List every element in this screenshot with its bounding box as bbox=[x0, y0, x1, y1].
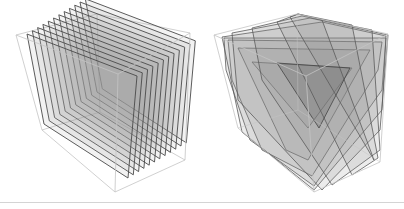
left-cube-illustration bbox=[0, 0, 202, 200]
diagonal-slices-cube bbox=[202, 0, 404, 200]
axis-aligned-slices-cube bbox=[0, 0, 202, 200]
bottom-divider bbox=[0, 202, 404, 203]
diagonal-slices bbox=[222, 14, 388, 190]
right-cube-illustration bbox=[202, 0, 404, 200]
parallel-slices bbox=[27, 0, 195, 178]
